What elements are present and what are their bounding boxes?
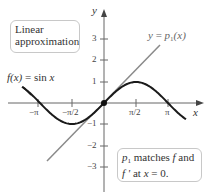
note-fprime: f ' [122, 167, 130, 179]
y-tick-label: −3 [87, 161, 97, 171]
note-text2: and [176, 151, 195, 163]
x-axis-label: x [193, 106, 198, 118]
y-axis-arrow-icon [101, 9, 107, 17]
x-tick-label: π [165, 107, 170, 117]
function-eq: = sin [22, 71, 49, 83]
note-text1: matches [131, 151, 173, 163]
note-line-1: p1 matches f and [122, 151, 197, 167]
tangent-arg: (x) [174, 29, 186, 41]
box-line-2: approximation [15, 35, 75, 47]
x-tick-label: −π/2 [62, 107, 79, 117]
origin-point [101, 100, 107, 106]
tangent-label: y = p1(x) [148, 29, 186, 43]
y-axis-label: y [92, 4, 97, 16]
tangent-eq: = [153, 29, 165, 41]
note-line-2: f ' at x = 0. [122, 167, 197, 179]
function-label: f(x) = sin x [7, 71, 54, 83]
x-tick-label: π/2 [129, 107, 141, 117]
y-tick-label: −2 [87, 140, 97, 150]
linear-approximation-box: Linear approximation [10, 20, 80, 53]
y-tick-label: −1 [87, 118, 97, 128]
note-box: p1 matches f and f ' at x = 0. [117, 148, 202, 182]
note-text4: = 0. [149, 167, 169, 179]
function-lhs: f(x) [7, 71, 22, 83]
y-tick-label: 3 [92, 33, 97, 43]
y-tick-label: 1 [92, 76, 97, 86]
box-line-1: Linear [15, 23, 75, 35]
note-text3: at [130, 167, 143, 179]
x-tick-label: −π [29, 107, 39, 117]
y-tick-label: 2 [92, 54, 97, 64]
label-pointer [23, 87, 31, 95]
function-var: x [50, 71, 55, 83]
